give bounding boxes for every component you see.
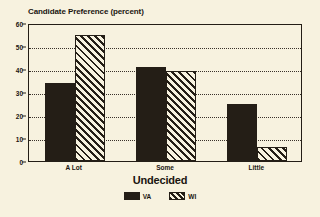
bar-group <box>45 25 105 161</box>
chart-title: Candidate Preference (percent) <box>28 7 144 16</box>
legend-entry-wi: WI <box>169 192 196 200</box>
y-tick-mark <box>22 70 26 71</box>
legend-swatch-va-icon <box>124 192 140 200</box>
plot-area <box>28 24 302 162</box>
bar-wi-little <box>257 147 287 161</box>
bar-wi-a-lot <box>75 35 105 162</box>
legend-label: WI <box>188 193 196 200</box>
x-tick-label: Little <box>249 164 265 171</box>
bar-wi-some <box>166 71 196 161</box>
y-tick-mark <box>22 162 26 163</box>
bar-group <box>136 25 196 161</box>
x-axis-title: Undecided <box>0 174 320 186</box>
x-tick-label: A Lot <box>65 164 81 171</box>
bar-va-little <box>227 104 257 162</box>
bar-va-some <box>136 67 166 161</box>
y-tick-mark <box>22 47 26 48</box>
y-axis: 0102030405060 <box>0 24 26 162</box>
legend-label: VA <box>143 193 152 200</box>
y-tick-mark <box>22 139 26 140</box>
legend-entry-va: VA <box>124 192 152 200</box>
bar-group <box>227 25 287 161</box>
legend-swatch-wi-icon <box>169 192 185 200</box>
bars-layer <box>29 25 301 161</box>
chart-legend: VAWI <box>0 192 320 200</box>
bar-va-a-lot <box>45 83 75 161</box>
y-tick-mark <box>22 24 26 25</box>
bar-chart: Candidate Preference (percent) 010203040… <box>0 0 320 217</box>
x-tick-label: Some <box>156 164 174 171</box>
y-tick-mark <box>22 116 26 117</box>
y-tick-mark <box>22 93 26 94</box>
